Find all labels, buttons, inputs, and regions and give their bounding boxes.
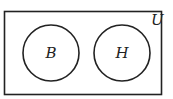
universe-label: U — [151, 11, 165, 29]
set-b-label: B — [44, 44, 56, 62]
set-h-label: H — [114, 44, 129, 62]
venn-diagram: U B H — [0, 0, 173, 99]
universe-rectangle — [5, 12, 162, 95]
